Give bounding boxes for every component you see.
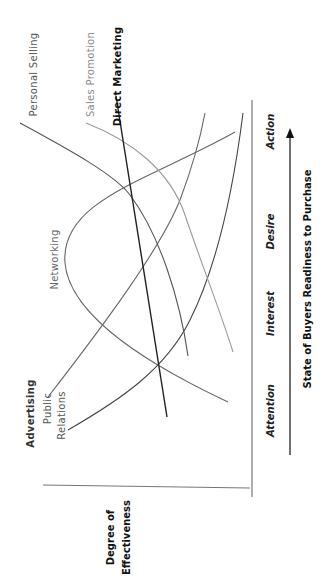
label-networking: Networking [49,220,60,300]
stage-attention: Attention [265,381,276,441]
label-direct-marketing: Direct Marketing [112,27,123,127]
label-sales-promotion: Sales Promotion [85,25,96,125]
label-public: Public [42,384,53,434]
stage-action: Action [265,102,276,162]
x-axis-title: State of Buyers Readiness to Purchase [302,189,313,389]
label-personal-selling: Personal Selling [28,25,39,125]
curve-advertising [48,113,205,397]
curve-networking [65,132,235,402]
y-axis-line [43,485,250,488]
y-axis-title-line2: Effectiveness [121,498,132,578]
stage-interest: Interest [265,284,276,344]
curve-personal-selling [20,123,188,356]
arrow-up-icon [286,128,294,138]
y-axis-title-line1: Degree of [105,503,116,573]
curve-public-relations [68,113,243,430]
label-advertising: Advertising [25,379,36,449]
stage-desire: Desire [265,202,276,262]
curve-direct-marketing [116,96,167,417]
label-relations: Relations [56,388,67,444]
